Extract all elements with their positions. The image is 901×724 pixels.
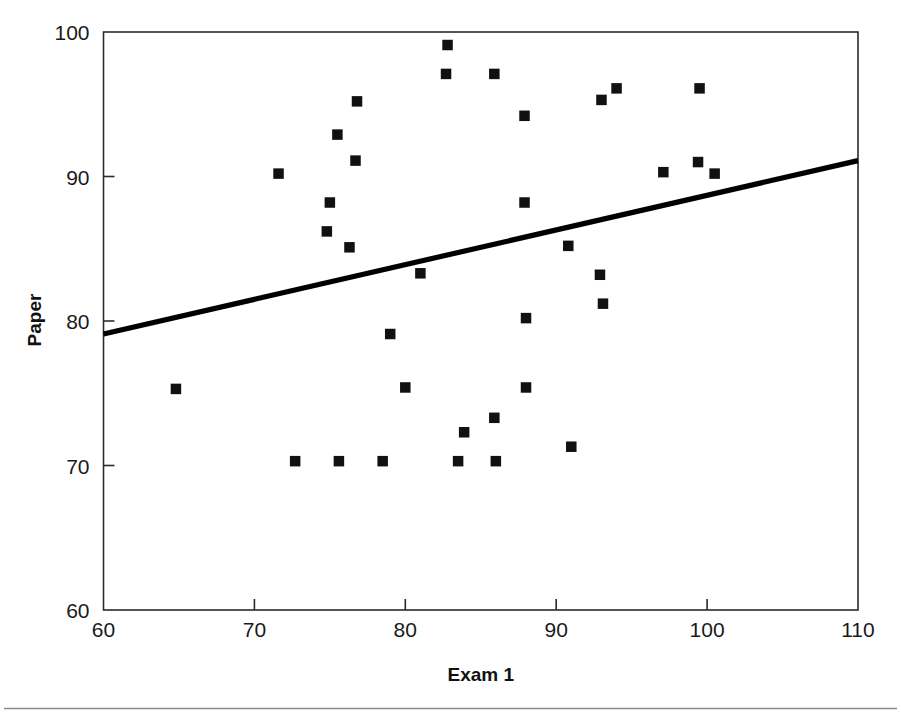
- scatter-point: [611, 83, 622, 94]
- x-axis-ticks: [254, 599, 707, 610]
- scatter-point: [566, 441, 577, 452]
- scatter-point: [709, 168, 720, 179]
- x-tick-label: 90: [545, 618, 568, 641]
- scatter-point: [596, 95, 607, 106]
- x-tick-label: 80: [394, 618, 417, 641]
- scatter-point: [334, 456, 345, 467]
- scatter-point: [453, 456, 464, 467]
- scatter-point: [377, 456, 388, 467]
- x-tick-label: 70: [243, 618, 266, 641]
- scatter-point: [385, 329, 396, 340]
- x-axis-tick-labels: 60708090100110: [92, 618, 875, 641]
- scatter-point: [352, 96, 363, 107]
- y-tick-label: 70: [66, 455, 89, 478]
- y-axis-title: Paper: [24, 293, 45, 346]
- scatter-point: [273, 168, 284, 179]
- scatter-point: [459, 427, 470, 438]
- regression-trend-line: [104, 161, 859, 334]
- x-tick-label: 60: [92, 618, 115, 641]
- y-tick-label: 100: [54, 21, 89, 44]
- scatter-point: [519, 111, 530, 122]
- scatter-point: [598, 298, 609, 309]
- scatter-point: [595, 270, 606, 281]
- scatter-point: [658, 167, 669, 178]
- scatter-point: [693, 157, 704, 168]
- scatter-point: [171, 384, 182, 395]
- y-axis-ticks: [104, 177, 115, 466]
- scatter-point: [332, 129, 343, 140]
- plot-frame: [104, 32, 859, 610]
- scatter-point: [489, 69, 500, 80]
- y-tick-label: 80: [66, 310, 89, 333]
- plot-area-border: [104, 32, 859, 610]
- scatter-point: [489, 413, 500, 424]
- scatter-point: [350, 155, 361, 166]
- y-axis-tick-labels: 60708090100: [54, 21, 89, 622]
- y-tick-label: 60: [66, 599, 89, 622]
- plot-canvas: 60708090100110 60708090100 Exam 1Paper: [0, 0, 901, 724]
- scatter-point: [519, 197, 530, 208]
- scatter-point: [322, 226, 333, 237]
- scatter-point: [442, 40, 453, 51]
- scatter-point: [563, 241, 574, 252]
- scatter-point: [694, 83, 705, 94]
- x-tick-label: 100: [690, 618, 725, 641]
- scatter-plot-figure: 60708090100110 60708090100 Exam 1Paper: [0, 0, 901, 724]
- scatter-point: [491, 456, 502, 467]
- scatter-point: [441, 69, 452, 80]
- trend-line: [104, 161, 859, 334]
- x-tick-label: 110: [841, 618, 874, 641]
- scatter-point: [400, 382, 411, 393]
- x-axis-title: Exam 1: [447, 664, 514, 685]
- scatter-point: [290, 456, 301, 467]
- scatter-point: [325, 197, 336, 208]
- scatter-point: [415, 268, 426, 279]
- scatter-point: [344, 242, 355, 253]
- scatter-point: [521, 382, 532, 393]
- y-tick-label: 90: [66, 166, 89, 189]
- scatter-point: [521, 313, 532, 324]
